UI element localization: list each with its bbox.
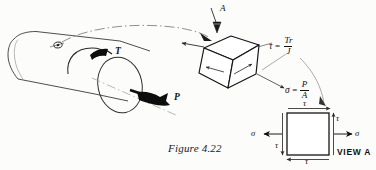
shear-formula-denominator: J bbox=[284, 46, 292, 57]
figure-canvas: A T P τ = Tr J σ = P A τ τ τ τ σ σ VIEW … bbox=[0, 0, 376, 170]
cube-left-arrow bbox=[182, 43, 204, 47]
shear-stress-symbol: τ bbox=[269, 41, 272, 51]
tau-top-label: τ bbox=[303, 99, 306, 108]
element-location-marker-icon bbox=[50, 41, 64, 48]
shear-formula-equals: = bbox=[275, 41, 280, 51]
torque-label: T bbox=[115, 47, 121, 57]
normal-stress-symbol: σ bbox=[285, 85, 290, 95]
view-direction-label: A bbox=[220, 4, 226, 13]
shaft-body bbox=[8, 32, 178, 117]
figure-caption: Figure 4.22 bbox=[168, 143, 222, 154]
tau-bottom-label: τ bbox=[305, 157, 308, 166]
shear-stress-formula: τ = Tr J bbox=[269, 36, 295, 57]
normal-formula-equals: = bbox=[292, 85, 297, 95]
tau-right-label: τ bbox=[336, 114, 339, 123]
normal-formula-numerator: P bbox=[300, 80, 310, 89]
sigma-right-label: σ bbox=[355, 129, 359, 138]
axial-force-label: P bbox=[174, 93, 180, 103]
tau-left-label: τ bbox=[275, 141, 278, 150]
shear-formula-fraction: Tr J bbox=[282, 36, 294, 57]
view-a-label: VIEW A bbox=[337, 148, 371, 157]
shear-formula-numerator: Tr bbox=[282, 36, 294, 45]
sigma-left-label: σ bbox=[251, 129, 255, 138]
callout-arc bbox=[62, 25, 212, 42]
cube-stress-element bbox=[199, 36, 259, 88]
